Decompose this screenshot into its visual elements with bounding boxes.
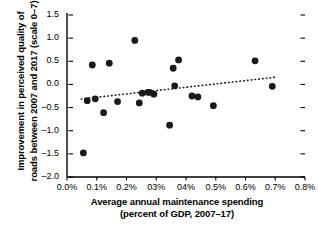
data-point (139, 90, 146, 97)
y-tick-label: –1.0 (15, 125, 59, 135)
y-tick-label: 0.5 (15, 55, 59, 65)
y-tick-label: –1.5 (15, 148, 59, 158)
data-point (89, 62, 96, 69)
data-point (195, 94, 202, 101)
data-point (80, 150, 87, 157)
data-point (92, 95, 99, 102)
data-point (84, 97, 91, 104)
data-point (114, 98, 121, 105)
x-axis-title-line1: Average annual maintenance spending (91, 196, 263, 207)
data-point (175, 56, 182, 63)
data-point (252, 57, 259, 64)
x-tick-label: 0.8% (285, 182, 318, 192)
y-tick-label: –2.0 (15, 171, 59, 181)
scatter-chart-figure: Improvement in perceived quality of road… (0, 0, 318, 229)
y-axis-title-container: Improvement in perceived quality of road… (15, 0, 41, 191)
x-axis-title-line2: (percent of GDP, 2007–17) (120, 208, 234, 219)
data-point (136, 100, 143, 107)
y-tick-label: 1.5 (15, 9, 59, 19)
data-point (171, 82, 178, 89)
x-axis-title: Average annual maintenance spending (per… (52, 196, 302, 219)
data-point (189, 93, 196, 100)
y-axis-title: Improvement in perceived quality of road… (15, 0, 40, 191)
y-tick-label: 0.0 (15, 78, 59, 88)
data-point (269, 83, 276, 90)
data-point (166, 122, 173, 129)
trend-line (81, 77, 275, 99)
y-tick-label: 1.0 (15, 32, 59, 42)
data-point (131, 37, 138, 44)
data-point (150, 91, 157, 98)
y-tick-label: –0.5 (15, 102, 59, 112)
data-point (106, 60, 113, 67)
data-point (100, 109, 107, 116)
data-point (210, 102, 217, 109)
data-point (170, 65, 177, 72)
